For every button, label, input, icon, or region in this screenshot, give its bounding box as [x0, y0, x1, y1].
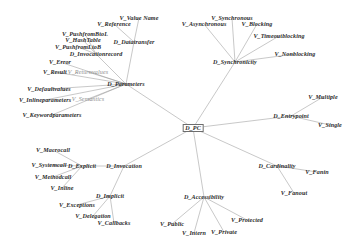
edge-D_Cardinality-to-V_Fanout	[277, 166, 294, 193]
node-v-keywordparameters[interactable]: V_Keywordparameters	[22, 112, 81, 118]
node-v-multiple[interactable]: V_Multiple	[308, 94, 337, 100]
node-v-inline[interactable]: V_Inline	[50, 185, 73, 191]
node-v-fanin[interactable]: V_Fanin	[305, 169, 328, 175]
node-d-entrypoint[interactable]: D_Entrypoint	[273, 113, 309, 119]
edge-D_Accessibility-to-V_Public	[172, 197, 204, 224]
edge-D_Synchronicity-to-V_Synchronous	[232, 18, 235, 62]
node-d-implicit[interactable]: D_Implicit	[96, 193, 124, 199]
node-v-macrocall[interactable]: V_Macrocall	[36, 147, 70, 153]
node-v-inlineparameters[interactable]: V_Inlineparameters	[19, 97, 71, 103]
edge-D_PC-to-D_Invocation	[124, 128, 193, 166]
node-d-synchronicity[interactable]: D_Synchronicity	[213, 59, 257, 65]
node-d-pc[interactable]: D_PC	[183, 124, 204, 132]
node-v-error[interactable]: V_Error	[49, 59, 71, 65]
edge-D_PC-to-D_Synchronicity	[193, 62, 235, 128]
node-v-blocking[interactable]: V_Blocking	[242, 21, 273, 27]
node-v-single[interactable]: V_Single	[318, 122, 342, 128]
node-v-returnvalues[interactable]: V_Returnvalues	[68, 69, 108, 75]
node-v-result[interactable]: V_Result	[43, 69, 67, 75]
node-v-fanout[interactable]: V_Fanout	[281, 190, 308, 196]
edge-layer	[0, 0, 360, 246]
node-v-delegation[interactable]: V_Delegation	[75, 213, 111, 219]
node-d-invocation[interactable]: D_Invocation	[106, 163, 142, 169]
node-v-reference[interactable]: V_Reference	[97, 21, 131, 27]
node-d-explicit[interactable]: D_Explicit	[68, 163, 96, 169]
diagram-canvas: D_PCD_ParametersD_SynchronicityD_Entrypo…	[0, 0, 360, 246]
node-v-nonblocking[interactable]: V_Nonblocking	[275, 51, 316, 57]
node-v-protected[interactable]: V_Protected	[231, 217, 263, 223]
node-v-defaultvalues[interactable]: V_Defaultvalues	[27, 86, 70, 92]
node-v-pushfromltob[interactable]: V_PushfromLtoB	[55, 44, 101, 50]
edge-D_Synchronicity-to-V_Blocking	[235, 24, 257, 62]
node-d-datatransfer[interactable]: D_Datatransfer	[113, 39, 154, 45]
node-v-asynchronous[interactable]: V_Asynchronous	[182, 21, 227, 27]
node-d-cardinality[interactable]: D_Cardinality	[258, 163, 295, 169]
node-d-parameters[interactable]: D_Parameters	[107, 81, 144, 87]
edge-D_PC-to-D_Cardinality	[193, 128, 277, 166]
node-v-intern[interactable]: V_Intern	[182, 230, 206, 236]
edge-D_PC-to-D_Accessibility	[193, 128, 204, 197]
edge-D_Invocation-to-D_Implicit	[110, 166, 124, 196]
edge-D_Accessibility-to-V_Intern	[194, 197, 204, 233]
node-v-systemcall[interactable]: V_Systemcall	[31, 162, 66, 168]
node-v-timeoutblocking[interactable]: V_Timeoutblocking	[253, 33, 304, 39]
edge-D_PC-to-D_Parameters	[126, 84, 193, 128]
node-v-hashtable[interactable]: V_HashTable	[65, 37, 100, 43]
edge-D_Synchronicity-to-V_Asynchronous	[204, 24, 235, 62]
node-v-public[interactable]: V_Public	[160, 221, 184, 227]
node-v-semantics[interactable]: V_Semantics	[72, 96, 105, 102]
node-d-accessibility[interactable]: D_Accessibility	[184, 194, 224, 200]
node-d-invocationrecord[interactable]: D_Invocationrecord	[70, 51, 123, 57]
node-v-exceptions[interactable]: V_Exceptions	[59, 202, 95, 208]
node-v-private[interactable]: V_Private	[211, 229, 237, 235]
edge-D_Parameters-to-D_Datatransfer	[126, 42, 134, 84]
node-v-methodcall[interactable]: V_Methodcall	[35, 174, 72, 180]
node-v-callbacks[interactable]: V_Callbacks	[98, 220, 131, 226]
